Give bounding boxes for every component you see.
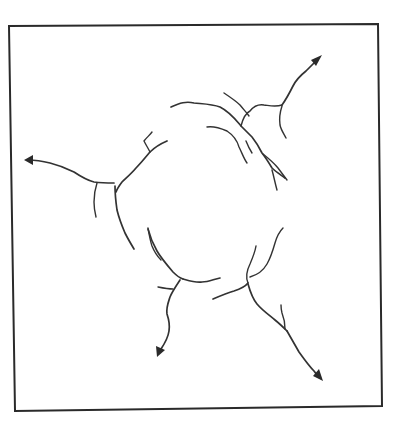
crack-pattern-diagram bbox=[0, 0, 400, 426]
arrow-lower-left-icon bbox=[156, 346, 165, 357]
lower-right-crack-cluster bbox=[213, 228, 320, 378]
lower-left-crack-cluster bbox=[148, 229, 220, 349]
arrow-left-icon bbox=[24, 155, 33, 165]
upper-crack-cluster bbox=[171, 59, 318, 190]
square-frame bbox=[9, 24, 382, 411]
left-crack-cluster bbox=[28, 132, 167, 260]
